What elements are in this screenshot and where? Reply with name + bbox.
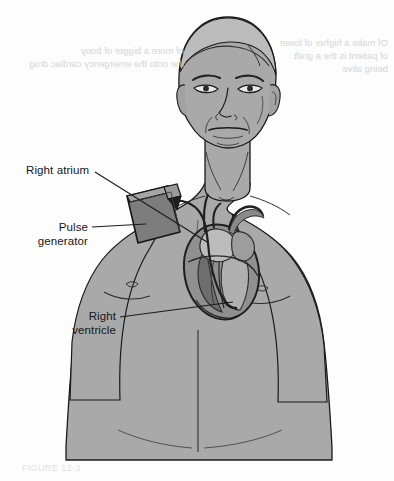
eye-right-iris (247, 86, 253, 92)
label-pulse-generator: Pulse generator (6, 220, 88, 248)
label-right-atrium: Right atrium (26, 163, 89, 177)
ear-right (269, 85, 280, 116)
eye-left-iris (203, 86, 209, 92)
ear-left (177, 85, 186, 116)
label-right-ventricle: Right ventricle (40, 309, 116, 337)
body-figure (66, 17, 332, 460)
figure-page: of more a bigger of bony the onto the em… (0, 0, 394, 481)
